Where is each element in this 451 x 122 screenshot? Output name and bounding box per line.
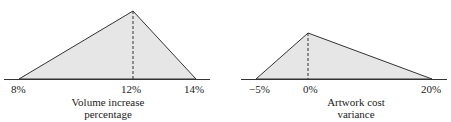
tick-label-20: 20% — [421, 83, 441, 95]
tick-label-12: 12% — [121, 83, 141, 95]
axis-title-line: Volume increase — [63, 96, 153, 108]
tick-label-0: 0% — [303, 83, 318, 95]
artwork-axis-title: Artwork cost variance — [316, 96, 396, 120]
artwork-cost-chart — [241, 33, 447, 80]
axis-title-line: variance — [316, 108, 396, 120]
volume-axis-title: Volume increase percentage — [63, 96, 153, 120]
tick-label-neg5: −5% — [249, 83, 270, 95]
tick-label-14: 14% — [184, 83, 204, 95]
axis-title-line: percentage — [63, 108, 153, 120]
artwork-triangle — [256, 33, 432, 79]
volume-triangle — [19, 11, 196, 79]
volume-increase-chart — [4, 11, 210, 80]
tick-label-8: 8% — [11, 83, 26, 95]
axis-title-line: Artwork cost — [316, 96, 396, 108]
